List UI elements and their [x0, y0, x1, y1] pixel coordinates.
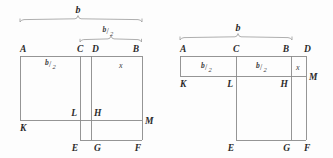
left-bracket-b-full: b [20, 4, 142, 22]
left-vertex-l: L [70, 108, 77, 118]
right-vertex-a: A [179, 44, 186, 54]
bracket-path-b-full [180, 34, 292, 40]
right-dim-label-b: b [236, 22, 241, 33]
left-label-x: x [118, 61, 123, 70]
right-vertex-h: H [280, 79, 289, 89]
left-vertex-h: H [93, 108, 102, 118]
frac-denominator: 2 [110, 30, 114, 37]
right-label-x: x [295, 63, 300, 72]
right-diagram: b b / 2 b / [179, 22, 318, 153]
right-vertex-b: B [282, 44, 289, 54]
right-vertex-e: E [227, 143, 234, 153]
right-label-b-half-left: b / 2 [201, 61, 213, 73]
frac-denominator: 2 [264, 66, 268, 73]
left-vertex-g: G [94, 143, 101, 153]
right-vertex-m: M [308, 72, 318, 82]
figure-canvas: b b / 2 [0, 0, 333, 158]
left-vertex-d: D [91, 44, 99, 54]
right-bracket-b-full: b [180, 22, 292, 40]
left-diagram: b b / 2 [19, 4, 154, 153]
right-vertex-f: F [303, 143, 311, 153]
frac-denominator: 2 [53, 63, 57, 70]
left-vertex-m: M [144, 116, 154, 126]
frac-denominator: 2 [209, 66, 213, 73]
left-dim-label-b: b [76, 4, 81, 15]
left-label-b-half-inner: b / 2 [45, 58, 57, 70]
right-vertex-l: L [226, 79, 233, 89]
left-vertex-f: F [134, 143, 142, 153]
right-vertex-k: K [179, 79, 187, 89]
bracket-path-b-half [80, 36, 142, 42]
right-vertex-g: G [283, 143, 290, 153]
left-bracket-b-half: b / 2 [80, 25, 142, 42]
right-label-b-half-right: b / 2 [256, 61, 268, 73]
left-dim-label-b-half: b / 2 [103, 25, 115, 37]
left-vertex-b: B [132, 44, 139, 54]
right-vertex-c: C [233, 44, 240, 54]
geometry-figures-svg: b b / 2 [0, 0, 333, 158]
left-vertex-k: K [19, 123, 27, 133]
left-vertex-e: E [71, 143, 78, 153]
left-vertex-a: A [19, 44, 26, 54]
left-vertex-c: C [77, 44, 84, 54]
bracket-path-b-full [20, 16, 142, 22]
right-vertex-d: D [303, 44, 311, 54]
